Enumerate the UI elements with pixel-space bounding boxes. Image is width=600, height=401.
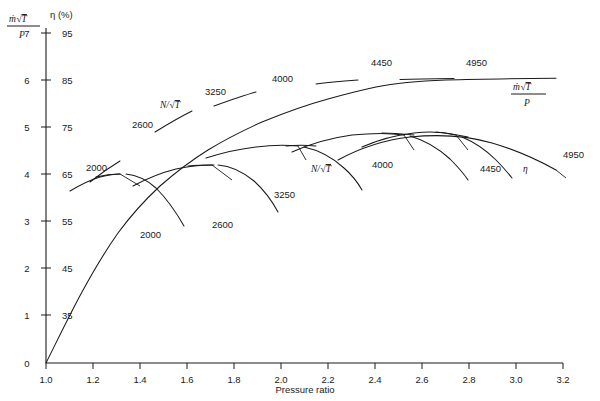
chart-svg: ṁ√T P η (%) 7 95 6 85 5 75 4 65 3 55 2 4… — [0, 0, 600, 401]
svg-text:75: 75 — [62, 122, 73, 133]
svg-text:1.6: 1.6 — [180, 374, 193, 385]
efficiency-label-4450: 4450 — [480, 163, 501, 174]
mass-flow-label-2600: 2600 — [132, 119, 153, 130]
svg-text:85: 85 — [62, 75, 73, 86]
y-axis-ticks: 7 95 6 85 5 75 4 65 3 55 2 45 1 35 0 — [24, 28, 72, 369]
efficiency-curve-3250 — [206, 145, 298, 158]
svg-text:ṁ√T: ṁ√T — [513, 82, 532, 92]
svg-text:2.6: 2.6 — [415, 374, 428, 385]
svg-text:2.4: 2.4 — [368, 374, 381, 385]
mass-flow-speed-labels: 2000 2600 3250 4000 4450 4950 — [86, 57, 487, 173]
mass-flow-label-4450: 4450 — [371, 57, 392, 68]
n-over-sqrt-t-upper-annotation: N/√T — [159, 100, 181, 110]
svg-text:2: 2 — [24, 263, 29, 274]
turbine-performance-chart: ṁ√T P η (%) 7 95 6 85 5 75 4 65 3 55 2 4… — [0, 0, 600, 401]
svg-text:0: 0 — [24, 358, 29, 369]
efficiency-curve-4000b — [410, 136, 468, 180]
efficiency-label-3250: 3250 — [274, 189, 295, 200]
efficiency-curve-2000b — [126, 174, 184, 226]
efficiency-marker-segments — [96, 132, 468, 177]
svg-text:55: 55 — [62, 216, 73, 227]
x-axis-ticks: 1.0 1.2 1.4 1.6 1.8 2.0 2.2 2.4 2.6 2.8 … — [39, 363, 569, 385]
x-axis-title: Pressure ratio — [275, 384, 334, 395]
mass-flow-label-4000: 4000 — [272, 73, 293, 84]
mass-flow-curve — [46, 78, 556, 363]
mass-flow-speed-ticks — [90, 79, 454, 182]
efficiency-label-2000: 2000 — [140, 229, 161, 240]
svg-text:7: 7 — [24, 28, 29, 39]
svg-text:2.8: 2.8 — [462, 374, 475, 385]
svg-text:1.4: 1.4 — [133, 374, 146, 385]
left-axis-numerator: ṁ√T — [9, 14, 28, 24]
svg-text:1: 1 — [24, 310, 29, 321]
efficiency-label-2600: 2600 — [212, 219, 233, 230]
efficiency-curve-2600b — [218, 165, 278, 212]
svg-text:6: 6 — [24, 75, 29, 86]
svg-text:95: 95 — [62, 28, 73, 39]
n-over-sqrt-t-lower-annotation: N/√T — [310, 164, 332, 174]
svg-text:3.2: 3.2 — [556, 374, 569, 385]
mass-flow-label-3250: 3250 — [205, 86, 226, 97]
svg-text:P: P — [523, 98, 530, 108]
svg-text:4: 4 — [24, 169, 29, 180]
efficiency-speed-labels: 2000 2600 3250 4000 4450 4950 — [140, 149, 584, 240]
svg-text:N/√T: N/√T — [159, 100, 181, 110]
svg-text:65: 65 — [62, 169, 73, 180]
efficiency-curve-2000 — [70, 174, 120, 191]
eta-percent-header: η (%) — [50, 9, 73, 20]
mass-flow-label-2000: 2000 — [86, 162, 107, 173]
svg-text:45: 45 — [62, 263, 73, 274]
efficiency-label-4000: 4000 — [372, 159, 393, 170]
mdot-sqrt-t-over-p-annotation: ṁ√T P — [511, 82, 546, 108]
svg-text:3.0: 3.0 — [509, 374, 522, 385]
svg-text:3: 3 — [24, 216, 29, 227]
svg-text:1.8: 1.8 — [227, 374, 240, 385]
mass-flow-label-4950: 4950 — [466, 57, 487, 68]
eta-family-symbol: η — [523, 164, 528, 174]
svg-text:5: 5 — [24, 122, 29, 133]
svg-text:1.0: 1.0 — [39, 374, 52, 385]
efficiency-leader-lines — [120, 135, 566, 186]
svg-text:1.2: 1.2 — [86, 374, 99, 385]
svg-text:N/√T: N/√T — [310, 164, 332, 174]
efficiency-curve-4000 — [292, 134, 404, 153]
efficiency-label-4950: 4950 — [563, 149, 584, 160]
